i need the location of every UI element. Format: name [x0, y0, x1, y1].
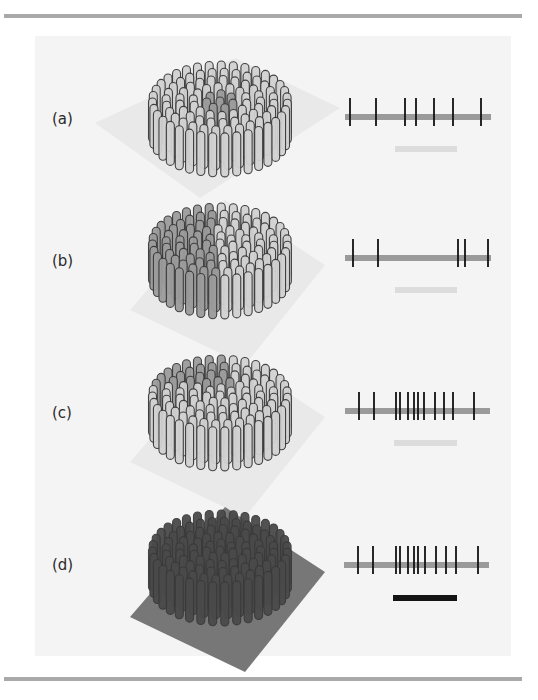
panel-label: (c) [52, 404, 72, 422]
top-rule [4, 14, 522, 18]
panel-label: (b) [52, 252, 73, 270]
bottom-rule [4, 677, 522, 681]
figure-panel [35, 36, 511, 656]
panel-label: (d) [52, 556, 73, 574]
panel-label: (a) [52, 110, 73, 128]
